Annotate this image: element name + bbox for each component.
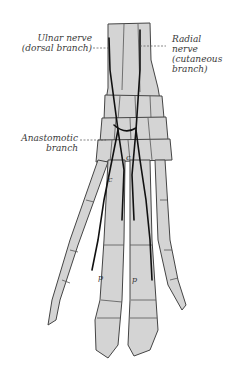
anastomotic-branch-label: Anastomotic branch xyxy=(12,133,78,153)
bone-letter-p1: p xyxy=(98,273,103,282)
ulnar-nerve-label: Ulnar nerve (dorsal branch) xyxy=(10,33,92,53)
digit-main-left xyxy=(95,160,125,358)
bone-letter-c2: c xyxy=(108,175,113,184)
digit-lateral-left xyxy=(48,160,108,325)
bone-letter-c1: c xyxy=(126,153,131,162)
forearm-bone xyxy=(106,23,160,100)
digit-lateral-right xyxy=(155,160,186,310)
radial-nerve-label: Radial nerve (cutaneous branch) xyxy=(172,34,232,74)
carpal-row-proximal xyxy=(104,95,164,120)
bone-letter-p2: p xyxy=(132,275,137,284)
